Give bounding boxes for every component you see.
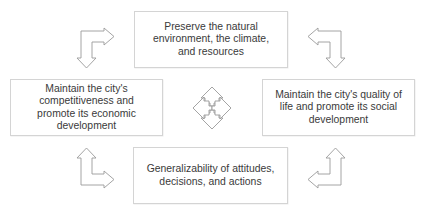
- text-line: environment, the climate,: [153, 33, 269, 45]
- goal-box-economic: Maintain the city's competitiveness and …: [10, 79, 163, 136]
- goal-box-generalizability-text: Generalizability of attitudes, decisions…: [147, 163, 275, 187]
- text-line: life and promote its social: [275, 101, 402, 113]
- goal-box-environment-text: Preserve the natural environment, the cl…: [153, 21, 269, 58]
- goal-box-economic-text: Maintain the city's competitiveness and …: [37, 83, 136, 132]
- text-line: development: [275, 114, 402, 126]
- bent-double-arrow-icon: [76, 28, 116, 70]
- text-line: Preserve the natural: [153, 21, 269, 33]
- text-line: development: [37, 120, 136, 132]
- bent-double-arrow-icon: [306, 146, 346, 188]
- text-line: Maintain the city's: [37, 83, 136, 95]
- text-line: promote its economic: [37, 108, 136, 120]
- bent-double-arrow-icon: [76, 146, 116, 188]
- goal-box-environment: Preserve the natural environment, the cl…: [134, 11, 288, 68]
- bent-double-arrow-icon: [306, 28, 346, 70]
- four-way-arrow-icon: [192, 86, 232, 130]
- text-line: Generalizability of attitudes,: [147, 163, 275, 175]
- text-line: competitiveness and: [37, 95, 136, 107]
- goal-box-generalizability: Generalizability of attitudes, decisions…: [133, 147, 288, 204]
- goal-box-social-text: Maintain the city's quality of life and …: [275, 89, 402, 126]
- goal-box-social: Maintain the city's quality of life and …: [262, 79, 415, 136]
- text-line: Maintain the city's quality of: [275, 89, 402, 101]
- text-line: decisions, and actions: [147, 176, 275, 188]
- text-line: and resources: [153, 46, 269, 58]
